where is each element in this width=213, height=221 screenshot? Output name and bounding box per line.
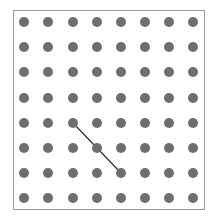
grid-dot-r3-c7[interactable] xyxy=(188,93,198,103)
grid-dot-r3-c3[interactable] xyxy=(92,93,102,103)
grid-dot-r5-c0[interactable] xyxy=(19,143,29,153)
grid-dot-r6-c1[interactable] xyxy=(43,168,53,178)
grid-dot-r1-c3[interactable] xyxy=(92,42,102,52)
grid-dot-r6-c0[interactable] xyxy=(19,168,29,178)
grid-dot-r4-c6[interactable] xyxy=(164,118,174,128)
grid-dot-r6-c7[interactable] xyxy=(188,168,198,178)
grid-dot-r5-c7[interactable] xyxy=(188,143,198,153)
grid-dot-r3-c0[interactable] xyxy=(19,93,29,103)
grid-dot-r5-c4[interactable] xyxy=(116,143,126,153)
grid-dot-r3-c5[interactable] xyxy=(140,93,150,103)
grid-dot-r6-c6[interactable] xyxy=(164,168,174,178)
grid-dot-r2-c6[interactable] xyxy=(164,67,174,77)
grid-dot-r2-c5[interactable] xyxy=(140,67,150,77)
grid-dot-r0-c2[interactable] xyxy=(68,17,78,27)
dot-grid[interactable] xyxy=(0,0,213,221)
grid-dot-r5-c2[interactable] xyxy=(68,143,78,153)
grid-dot-r7-c5[interactable] xyxy=(140,193,150,203)
grid-dot-r0-c4[interactable] xyxy=(116,17,126,27)
grid-dot-r1-c7[interactable] xyxy=(188,42,198,52)
grid-dot-r4-c7[interactable] xyxy=(188,118,198,128)
grid-dot-r6-c5[interactable] xyxy=(140,168,150,178)
grid-dot-r5-c6[interactable] xyxy=(164,143,174,153)
grid-dot-r4-c1[interactable] xyxy=(43,118,53,128)
grid-dot-r3-c1[interactable] xyxy=(43,93,53,103)
grid-dot-r6-c4[interactable] xyxy=(116,168,126,178)
grid-dot-r6-c2[interactable] xyxy=(68,168,78,178)
grid-dot-r2-c4[interactable] xyxy=(116,67,126,77)
grid-dot-r2-c0[interactable] xyxy=(19,67,29,77)
grid-dot-r1-c5[interactable] xyxy=(140,42,150,52)
grid-dot-r5-c5[interactable] xyxy=(140,143,150,153)
grid-dot-r4-c5[interactable] xyxy=(140,118,150,128)
grid-dot-r2-c3[interactable] xyxy=(92,67,102,77)
grid-dot-r1-c4[interactable] xyxy=(116,42,126,52)
grid-dot-r1-c6[interactable] xyxy=(164,42,174,52)
grid-dot-r4-c2[interactable] xyxy=(68,118,78,128)
grid-dot-r7-c6[interactable] xyxy=(164,193,174,203)
grid-dot-r4-c0[interactable] xyxy=(19,118,29,128)
grid-dot-r0-c0[interactable] xyxy=(19,17,29,27)
grid-dot-r4-c3[interactable] xyxy=(92,118,102,128)
grid-dot-r0-c1[interactable] xyxy=(43,17,53,27)
grid-dot-r2-c1[interactable] xyxy=(43,67,53,77)
grid-dot-r5-c3[interactable] xyxy=(92,143,102,153)
grid-dot-r0-c3[interactable] xyxy=(92,17,102,27)
grid-dot-r7-c4[interactable] xyxy=(116,193,126,203)
grid-dot-r3-c2[interactable] xyxy=(68,93,78,103)
grid-dot-r0-c6[interactable] xyxy=(164,17,174,27)
grid-dot-r7-c2[interactable] xyxy=(68,193,78,203)
grid-dot-r0-c5[interactable] xyxy=(140,17,150,27)
grid-dot-r7-c1[interactable] xyxy=(43,193,53,203)
grid-dot-r1-c2[interactable] xyxy=(68,42,78,52)
grid-dot-r1-c1[interactable] xyxy=(43,42,53,52)
grid-dot-r4-c4[interactable] xyxy=(116,118,126,128)
grid-dot-r2-c2[interactable] xyxy=(68,67,78,77)
grid-dot-r5-c1[interactable] xyxy=(43,143,53,153)
grid-dot-r3-c6[interactable] xyxy=(164,93,174,103)
grid-dot-r7-c0[interactable] xyxy=(19,193,29,203)
grid-dot-r3-c4[interactable] xyxy=(116,93,126,103)
grid-dot-r1-c0[interactable] xyxy=(19,42,29,52)
grid-dot-r2-c7[interactable] xyxy=(188,67,198,77)
grid-dot-r0-c7[interactable] xyxy=(188,17,198,27)
grid-dot-r7-c3[interactable] xyxy=(92,193,102,203)
grid-dot-r6-c3[interactable] xyxy=(92,168,102,178)
grid-dot-r7-c7[interactable] xyxy=(188,193,198,203)
